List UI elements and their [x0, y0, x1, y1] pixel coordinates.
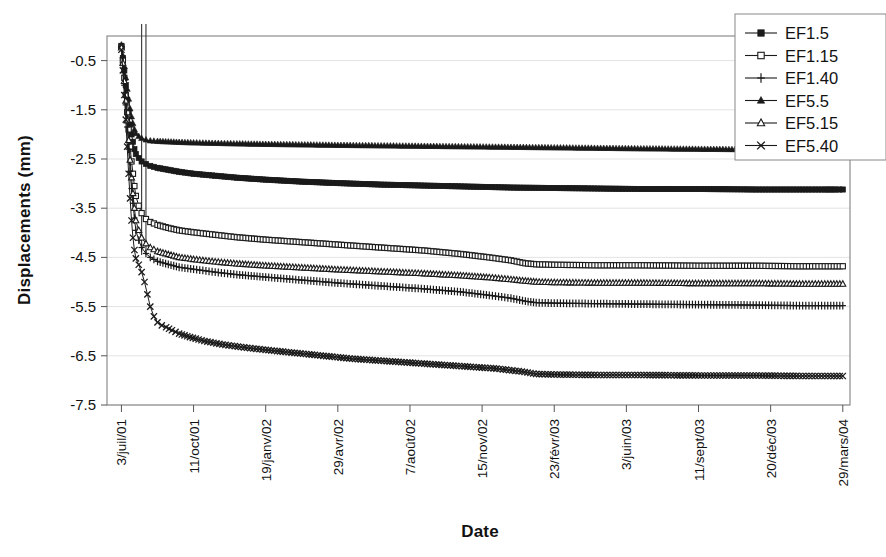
chart-figure: -0.5-1.5-2.5-3.5-4.5-5.5-6.5-7.5 3/juil/… — [0, 0, 886, 557]
x-tick-label: 15/nov/02 — [475, 419, 490, 478]
y-tick-label: -0.5 — [70, 52, 96, 69]
y-tick-label: -1.5 — [70, 101, 96, 118]
y-tick-label: -5.5 — [70, 298, 96, 315]
data-marker — [840, 187, 845, 192]
legend-label: EF1.5 — [785, 24, 829, 42]
y-tick-label: -3.5 — [70, 199, 96, 216]
x-tick-label: 29/avr/02 — [331, 419, 346, 475]
x-axis-title: Date — [461, 522, 499, 541]
legend-label: EF5.40 — [785, 137, 838, 155]
displacements-vs-date-chart: -0.5-1.5-2.5-3.5-4.5-5.5-6.5-7.5 3/juil/… — [0, 0, 886, 557]
legend-label: EF5.15 — [785, 114, 838, 132]
x-tick-label: 3/juin/03 — [619, 419, 634, 470]
x-tick-label: 11/sept/03 — [692, 419, 707, 481]
y-tick-label: -7.5 — [70, 396, 96, 413]
x-tick-label: 23/févr/03 — [547, 419, 562, 479]
data-marker — [840, 264, 845, 269]
y-tick-label: -4.5 — [70, 248, 96, 265]
x-tick-label: 11/oct/01 — [187, 419, 202, 474]
data-marker — [139, 211, 144, 216]
chart-legend: EF1.5EF1.15EF1.40EF5.5EF5.15EF5.40 — [735, 14, 886, 160]
legend-marker-icon — [758, 30, 764, 36]
x-tick-label: 7/août/02 — [403, 419, 418, 475]
legend-label: EF5.5 — [785, 92, 829, 110]
legend-label: EF1.15 — [785, 47, 838, 65]
legend-marker-icon — [758, 52, 764, 58]
x-tick-label: 29/mars/04 — [836, 419, 851, 487]
x-tick-label: 20/déc/03 — [764, 419, 779, 478]
x-tick-label: 19/janv/02 — [259, 419, 274, 481]
x-tick-label: 3/juil/01 — [114, 419, 129, 466]
y-axis-title: Displacements (mm) — [15, 135, 34, 305]
y-tick-label: -2.5 — [70, 150, 96, 167]
legend-label: EF1.40 — [785, 69, 838, 87]
data-marker — [136, 203, 141, 208]
y-tick-label: -6.5 — [70, 347, 96, 364]
